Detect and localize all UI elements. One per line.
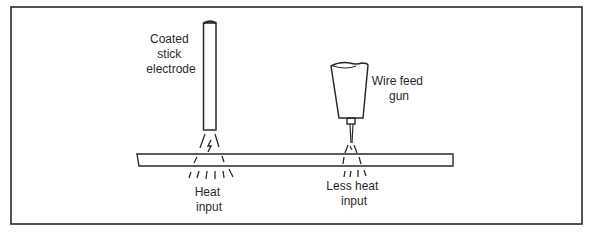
less-heat-input-label: Less heat input xyxy=(326,179,381,208)
welding-heat-input-diagram: Coated stick electrode Heat input Wire f… xyxy=(0,0,590,232)
wire-feed-gun xyxy=(331,62,368,143)
wire-feed-gun-label: Wire feed gun xyxy=(372,74,427,103)
stick-electrode-label: Coated stick electrode xyxy=(146,32,196,76)
stick-electrode xyxy=(204,22,217,131)
stick-heat-rays xyxy=(189,169,233,179)
heat-input-label: Heat input xyxy=(195,185,224,214)
workpiece-bar xyxy=(137,154,453,166)
figure-frame xyxy=(11,7,582,224)
arc-spark-icon xyxy=(208,140,211,152)
gun-heat-rays xyxy=(344,170,366,177)
